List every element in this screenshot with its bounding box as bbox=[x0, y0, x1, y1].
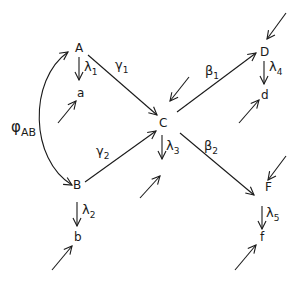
disturbance-arrow-F bbox=[268, 156, 286, 180]
node-f: f bbox=[260, 231, 264, 243]
edge-beta1-arrow bbox=[177, 53, 256, 112]
label-lambda4: λ4 bbox=[269, 60, 282, 73]
disturbance-arrow-f bbox=[235, 245, 256, 270]
disturbance-arrow-C-upper bbox=[170, 77, 189, 101]
path-diagram-canvas bbox=[0, 0, 295, 285]
node-F: F bbox=[265, 181, 272, 193]
disturbance-arrow-D bbox=[267, 13, 286, 39]
node-D: D bbox=[260, 46, 269, 58]
label-beta2: β2 bbox=[204, 139, 218, 152]
disturbance-arrow-d bbox=[239, 100, 259, 123]
node-d: d bbox=[261, 89, 269, 101]
label-gamma1: γ1 bbox=[115, 58, 128, 71]
node-A: A bbox=[75, 42, 83, 54]
node-B: B bbox=[73, 179, 81, 191]
label-lambda1: λ1 bbox=[84, 60, 97, 73]
disturbance-arrow-b bbox=[52, 246, 72, 270]
label-gamma2: γ2 bbox=[96, 144, 109, 157]
edge-phiAB-curve bbox=[39, 52, 72, 185]
label-lambda3: λ3 bbox=[166, 139, 179, 152]
label-lambda2: λ2 bbox=[82, 203, 95, 216]
label-lambda5: λ5 bbox=[266, 206, 279, 219]
node-C: C bbox=[159, 117, 167, 129]
node-b: b bbox=[74, 231, 82, 243]
disturbance-arrow-C-lower bbox=[140, 176, 160, 198]
disturbance-arrow-a bbox=[58, 101, 76, 123]
label-beta1: β1 bbox=[205, 64, 219, 77]
label-phiAB: φAB bbox=[11, 120, 36, 135]
node-a: a bbox=[77, 87, 84, 99]
